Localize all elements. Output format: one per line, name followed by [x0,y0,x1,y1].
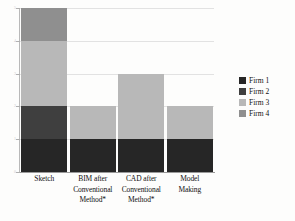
bar-segment [167,106,213,139]
y-axis-tick-mark [16,8,20,9]
bar-segment [167,139,213,172]
y-axis-tick-mark [16,74,20,75]
legend-item[interactable]: Firm 4 [239,108,293,119]
bar-group [167,106,213,172]
legend-item[interactable]: Firm 2 [239,86,293,97]
bar-group [70,106,116,172]
bar-segment [21,106,67,139]
y-axis-line [19,8,20,173]
x-axis-tick-label: ModelMaking [162,174,219,195]
legend-label: Firm 4 [249,110,269,118]
y-axis-tick-mark [16,172,20,173]
x-axis-tick-labels: SketchBIM afterConventionalMethod*CAD af… [20,174,215,220]
y-axis-tick-label: 3 [2,72,16,76]
y-axis-tick-label: 4 [2,39,16,43]
y-axis-tick-mark [16,41,20,42]
bar-group [21,8,67,172]
bar-group [118,74,164,172]
legend-swatch-icon [239,77,246,84]
legend-label: Firm 1 [249,77,269,85]
x-axis-line [19,172,215,173]
bar-segment [21,41,67,107]
legend-swatch-icon [239,99,246,106]
bar-segment [70,139,116,172]
legend-label: Firm 2 [249,88,269,96]
bar-segment [21,8,67,41]
legend-label: Firm 3 [249,99,269,107]
stacked-bar-chart: 012345 SketchBIM afterConventionalMethod… [0,0,295,221]
legend-swatch-icon [239,110,246,117]
y-axis-tick-label: 0 [2,170,16,174]
y-axis-tick-label: 5 [2,6,16,10]
y-axis-tick-label: 1 [2,137,16,141]
bar-segment [118,139,164,172]
bar-segment [21,139,67,172]
legend-item[interactable]: Firm 3 [239,97,293,108]
y-axis-tick-mark [16,139,20,140]
y-axis-tick-label: 2 [2,104,16,108]
bar-segment [118,74,164,140]
legend-swatch-icon [239,88,246,95]
bar-segment [70,106,116,139]
chart-legend: Firm 1Firm 2Firm 3Firm 4 [239,75,293,119]
legend-item[interactable]: Firm 1 [239,75,293,86]
y-axis-tick-mark [16,106,20,107]
plot-area [20,8,214,172]
